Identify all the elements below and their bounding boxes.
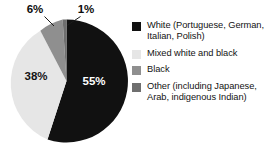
pie-chart-svg: 6% 1% 55% 38% bbox=[0, 0, 135, 150]
legend-item-black[interactable]: Black bbox=[132, 64, 275, 75]
pie-chart-figure: 6% 1% 55% 38% White (Portuguese, German,… bbox=[0, 0, 275, 150]
legend-label-mixed: Mixed white and black bbox=[147, 48, 237, 59]
legend-item-white[interactable]: White (Portuguese, German, Italian, Poli… bbox=[132, 20, 275, 43]
pie-label-mixed: 38% bbox=[24, 70, 47, 82]
legend-item-mixed[interactable]: Mixed white and black bbox=[132, 48, 275, 59]
legend-label-white: White (Portuguese, German, Italian, Poli… bbox=[147, 20, 275, 43]
legend-swatch-white-icon bbox=[132, 22, 141, 31]
legend-item-other[interactable]: Other (including Japanese, Arab, indigen… bbox=[132, 81, 275, 104]
pie-label-white: 55% bbox=[82, 75, 105, 87]
pie-label-black: 6% bbox=[27, 3, 44, 15]
legend-label-other: Other (including Japanese, Arab, indigen… bbox=[147, 81, 275, 104]
legend-swatch-black-icon bbox=[132, 66, 141, 75]
pie-chart-area: 6% 1% 55% 38% bbox=[0, 0, 135, 150]
legend: White (Portuguese, German, Italian, Poli… bbox=[132, 20, 275, 108]
legend-swatch-mixed-icon bbox=[132, 50, 141, 59]
legend-label-black: Black bbox=[147, 64, 169, 75]
legend-swatch-other-icon bbox=[132, 83, 141, 92]
pie-label-other: 1% bbox=[78, 3, 95, 15]
leader-line-black bbox=[45, 17, 55, 27]
